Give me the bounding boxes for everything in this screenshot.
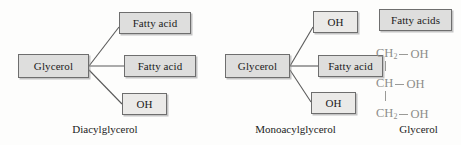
- connector-mag-top: [290, 27, 313, 66]
- chem-row-3: CH2 OH: [376, 104, 461, 124]
- node-label: Glycerol: [34, 61, 73, 72]
- caption-monoacylglycerol: Monoacylglycerol: [208, 124, 383, 135]
- node-dag-fatty-acid-middle[interactable]: Fatty acid: [124, 55, 196, 77]
- node-label: OH: [325, 98, 341, 109]
- figure-canvas: Glycerol Fatty acid Fatty acid OH Diacyl…: [0, 0, 461, 145]
- chem-row-2: CH OH: [376, 74, 461, 94]
- chem-carbon-1: CH2: [376, 47, 397, 61]
- node-label: Glycerol: [238, 61, 277, 72]
- caption-diacylglycerol: Diacylglycerol: [0, 124, 210, 135]
- node-dag-fatty-acid-top[interactable]: Fatty acid: [119, 12, 191, 34]
- node-label: Fatty acid: [133, 18, 178, 29]
- bond-horizontal-3: [399, 114, 408, 115]
- glycerol-structure: CH2 OH CH OH CH2 OH: [376, 44, 461, 124]
- connector-dag-top: [89, 27, 119, 66]
- node-label: Fatty acid: [138, 61, 183, 72]
- connector-mag-bottom: [290, 70, 311, 102]
- connector-dag-bottom: [89, 70, 122, 104]
- node-mag-fatty-acid-middle[interactable]: Fatty acid: [318, 55, 383, 77]
- node-label: OH: [136, 99, 152, 110]
- chem-carbon-2: CH: [376, 77, 393, 91]
- node-label: Fatty acid: [328, 61, 373, 72]
- chem-carbon-3: CH2: [376, 107, 397, 121]
- node-fatty-acids-header[interactable]: Fatty acids: [379, 9, 452, 31]
- node-dag-glycerol[interactable]: Glycerol: [18, 54, 89, 78]
- bond-vertical-2: [385, 91, 386, 101]
- node-label: Fatty acids: [391, 15, 440, 26]
- node-dag-oh-bottom[interactable]: OH: [122, 93, 167, 115]
- chem-group-3: OH: [410, 108, 428, 121]
- chem-subscript: 2: [393, 112, 397, 121]
- node-label: OH: [327, 17, 343, 28]
- bond-vertical-1: [385, 61, 386, 71]
- chem-group-2: OH: [406, 78, 424, 91]
- caption-glycerol: Glycerol: [376, 124, 461, 135]
- chem-row-1: CH2 OH: [376, 44, 461, 64]
- chem-group-1: OH: [410, 48, 428, 61]
- node-mag-oh-top[interactable]: OH: [313, 11, 358, 33]
- node-mag-glycerol[interactable]: Glycerol: [225, 54, 290, 78]
- bond-horizontal-1: [399, 54, 408, 55]
- bond-horizontal-2: [395, 84, 404, 85]
- chem-subscript: 2: [393, 52, 397, 61]
- node-mag-oh-bottom[interactable]: OH: [311, 92, 356, 114]
